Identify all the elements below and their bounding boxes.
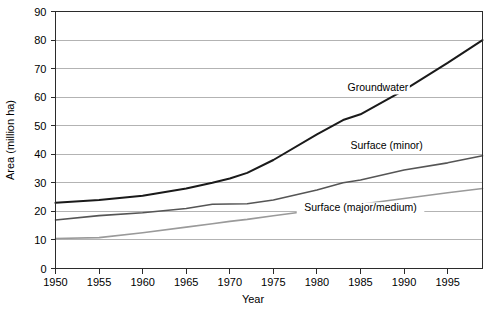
x-tick-label: 1980 [305, 276, 329, 288]
x-tick-label: 1965 [174, 276, 198, 288]
y-tick-label: 0 [40, 263, 46, 275]
y-tick-label: 40 [34, 148, 46, 160]
y-tick-label: 20 [34, 205, 46, 217]
y-tick-label: 70 [34, 63, 46, 75]
y-tick-label: 30 [34, 177, 46, 189]
x-tick-label: 1985 [348, 276, 372, 288]
y-tick-label: 50 [34, 120, 46, 132]
line-chart: 1950195519601965197019751980198519901995… [0, 0, 492, 311]
series-labels: GroundwaterSurface (minor)Surface (major… [297, 81, 430, 214]
series-label-0: Groundwater [348, 81, 409, 93]
x-tick-label: 1955 [87, 276, 111, 288]
y-axis-title: Area (million ha) [4, 100, 16, 180]
series-label-1: Surface (minor) [350, 139, 422, 151]
x-tick-label: 1950 [43, 276, 67, 288]
y-tick-label: 60 [34, 91, 46, 103]
series-label-2: Surface (major/medium) [304, 201, 417, 213]
x-tick-label: 1975 [261, 276, 285, 288]
x-tick-label: 1960 [130, 276, 154, 288]
x-tick-label: 1990 [392, 276, 416, 288]
series-line-0 [56, 40, 483, 203]
y-tick-label: 90 [34, 6, 46, 18]
x-axis-title: Year [242, 293, 265, 305]
x-axis-ticks: 1950195519601965197019751980198519901995 [43, 269, 460, 288]
y-tick-label: 10 [34, 234, 46, 246]
y-tick-label: 80 [34, 34, 46, 46]
chart-container: 1950195519601965197019751980198519901995… [0, 0, 492, 311]
y-axis-ticks: 0102030405060708090 [34, 6, 55, 275]
x-tick-label: 1970 [218, 276, 242, 288]
x-tick-label: 1995 [435, 276, 459, 288]
